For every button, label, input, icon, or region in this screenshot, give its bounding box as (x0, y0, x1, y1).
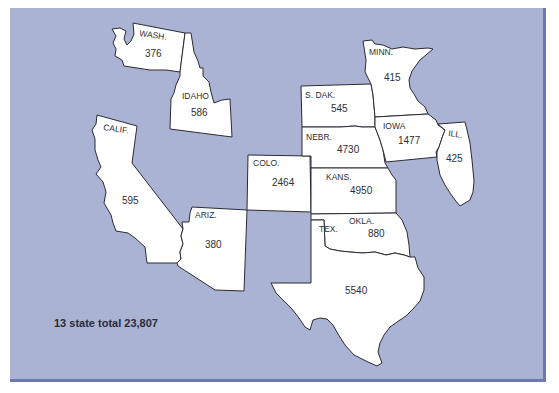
label-ariz: ARIZ. (195, 210, 217, 220)
value-idaho: 586 (191, 107, 208, 118)
label-sdak: S. DAK. (305, 90, 335, 100)
value-okla: 880 (368, 228, 385, 239)
value-minn: 415 (384, 72, 401, 83)
value-colo: 2464 (272, 177, 295, 188)
total-label: 13 state total 23,807 (54, 317, 158, 329)
value-iowa: 1477 (398, 135, 421, 146)
value-calif: 595 (122, 195, 139, 206)
value-ill: 425 (446, 153, 463, 164)
label-ill: ILL. (448, 128, 463, 140)
value-ariz: 380 (205, 239, 222, 250)
state-map: WASH. 376 IDAHO 586 CALIF. 595 ARIZ. 380… (0, 0, 559, 393)
label-kans: KANS. (326, 172, 352, 182)
label-nebr: NEBR. (306, 132, 332, 142)
value-tex: 5540 (345, 285, 368, 296)
label-okla: OKLA. (349, 216, 374, 226)
label-iowa: IOWA (383, 121, 406, 131)
label-idaho: IDAHO (182, 91, 209, 101)
value-kans: 4950 (350, 185, 373, 196)
label-tex: TEX. (319, 224, 338, 234)
label-minn: MINN. (369, 47, 393, 57)
state-california (92, 115, 183, 263)
label-colo: COLO. (253, 158, 279, 168)
value-nebr: 4730 (337, 144, 360, 155)
value-sdak: 545 (331, 103, 348, 114)
value-wash: 376 (145, 48, 162, 59)
